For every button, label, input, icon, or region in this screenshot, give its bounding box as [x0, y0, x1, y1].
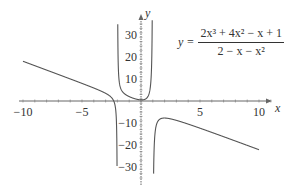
x-tick-label: 10 — [253, 105, 265, 119]
formula-denominator: 2 − x − x² — [218, 43, 265, 59]
x-tick-label: −5 — [76, 105, 89, 119]
function-curve — [23, 61, 117, 166]
y-axis-arrow-icon — [139, 14, 144, 20]
x-axis-arrow-icon — [266, 99, 272, 104]
formula-fraction: 2x³ + 4x² − x + 1 2 − x − x² — [198, 26, 284, 59]
y-axis-label: y — [144, 6, 151, 20]
function-curve — [154, 118, 259, 174]
y-tick-label: 20 — [125, 50, 137, 64]
y-tick-label: 30 — [125, 28, 137, 42]
formula: y = 2x³ + 4x² − x + 1 2 − x − x² — [178, 26, 284, 59]
formula-numerator: 2x³ + 4x² − x + 1 — [198, 26, 284, 43]
formula-lhs: y = — [178, 35, 194, 50]
y-tick-label: −20 — [118, 138, 137, 152]
x-axis-label: x — [274, 101, 281, 115]
x-tick-label: 5 — [197, 105, 203, 119]
y-tick-label: −30 — [118, 160, 137, 174]
x-tick-label: −10 — [14, 105, 33, 119]
chart: −10−5510302010−10−20−30xy y = 2x³ + 4x² … — [0, 0, 287, 195]
y-tick-label: 10 — [125, 72, 137, 86]
y-tick-label: −10 — [118, 116, 137, 130]
